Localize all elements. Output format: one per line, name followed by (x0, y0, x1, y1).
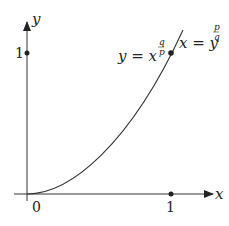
y-axis-label: y (31, 10, 41, 28)
x-tick-dot (169, 192, 174, 197)
x-axis-label: x (215, 185, 224, 203)
curve-label-right-exp-den: q (214, 32, 220, 42)
y-tick-dot (25, 51, 30, 56)
curve-label-left-exp-num: q (159, 37, 165, 47)
curve-label-right-exp-num: p (214, 22, 220, 32)
curve-label-left-exp-den: p (159, 47, 165, 57)
origin-label: 0 (32, 199, 41, 215)
curve-label-left-base: y = x (117, 47, 158, 65)
y-tick-label: 1 (15, 45, 24, 61)
curve-label-right-base: x = y (179, 34, 219, 52)
x-tick-label: 1 (166, 199, 175, 215)
function-diagram: y x 1 1 0 y = x q p x = y p q (0, 0, 229, 226)
curve-point-dot (168, 50, 174, 56)
curve-label-right: x = y p q (179, 22, 220, 52)
curve-label-left: y = x q p (117, 37, 165, 65)
